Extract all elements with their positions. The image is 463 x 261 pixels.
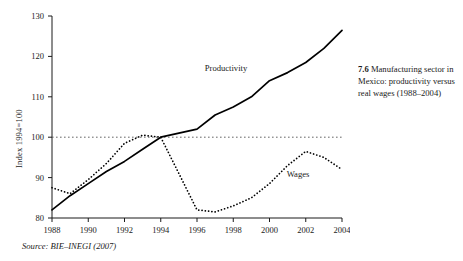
x-tick-2004: 2004 — [334, 225, 351, 235]
y-axis-ticks: 80 90 100 110 120 130 — [31, 11, 52, 223]
y-tick-90: 90 — [36, 173, 45, 183]
x-tick-1992: 1992 — [116, 225, 133, 235]
y-tick-120: 120 — [31, 51, 44, 61]
x-tick-2000: 2000 — [261, 225, 278, 235]
figure-caption: 7.6 Manufacturing sector in Mexico: prod… — [358, 64, 458, 100]
x-tick-1994: 1994 — [152, 225, 170, 235]
series-productivity-line — [52, 30, 342, 210]
figure-container: 80 90 100 110 120 130 1988 1990 1 — [0, 0, 463, 261]
figure-number: 7.6 — [358, 64, 369, 74]
x-axis-ticks: 1988 1990 1992 1994 1996 1998 2000 2002 … — [44, 218, 351, 235]
x-tick-1996: 1996 — [189, 225, 206, 235]
series-label-productivity: Productivity — [205, 63, 248, 73]
figure-source: Source: BIE–INEGI (2007) — [22, 241, 116, 251]
y-tick-80: 80 — [36, 213, 45, 223]
x-tick-2002: 2002 — [297, 225, 314, 235]
x-tick-1998: 1998 — [225, 225, 242, 235]
series-label-wages: Wages — [287, 169, 310, 179]
x-tick-1988: 1988 — [44, 225, 61, 235]
x-tick-1990: 1990 — [80, 225, 97, 235]
chart-plot-area: 80 90 100 110 120 130 1988 1990 1 — [0, 0, 350, 240]
figure-caption-text: Manufacturing sector in Mexico: producti… — [358, 64, 455, 98]
y-axis-title: Index 1994=100 — [14, 109, 24, 168]
y-tick-100: 100 — [31, 132, 44, 142]
line-chart-svg: 80 90 100 110 120 130 1988 1990 1 — [0, 0, 350, 240]
y-tick-110: 110 — [32, 92, 44, 102]
y-tick-130: 130 — [31, 11, 44, 21]
